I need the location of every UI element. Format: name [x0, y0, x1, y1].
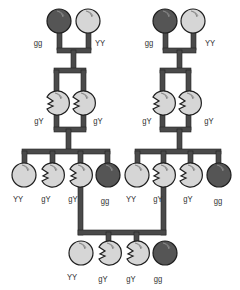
label-f2-left-1: YY: [13, 194, 23, 204]
pea-f1-right-2-icon: [179, 91, 201, 115]
pea-f1-right-1-icon: [153, 91, 175, 115]
pea-f3-4-icon: [153, 241, 177, 265]
label-f1-left-1: gY: [34, 116, 43, 126]
pea-f3-1-icon: [69, 241, 93, 265]
label-f2-left-2: gY: [41, 194, 50, 204]
pea-f3-2-icon: [99, 241, 121, 265]
pea-f2-right-3-icon: [180, 163, 202, 187]
pea-p-left-yy-icon: [76, 9, 100, 33]
label-f3-3: gY: [126, 274, 135, 284]
label-p-right-1: gg: [145, 38, 154, 48]
pea-f3-3-icon: [127, 241, 149, 265]
pedigree-diagram: gg YY gg YY gY gY gY gY YY gY gY gg YY g…: [0, 0, 240, 290]
pea-f2-right-4-icon: [207, 163, 231, 187]
label-f1-right-2: gY: [204, 116, 213, 126]
label-f1-right-1: gY: [142, 116, 151, 126]
pea-f2-left-2-icon: [42, 163, 64, 187]
label-p-left-2: YY: [95, 38, 105, 48]
pea-p-right-yy-icon: [181, 9, 205, 33]
pea-f2-right-2-icon: [153, 163, 175, 187]
pea-f2-left-3-icon: [70, 163, 92, 187]
pea-f2-left-4-icon: [96, 163, 120, 187]
pea-f1-left-2-icon: [73, 91, 95, 115]
label-f3-2: gY: [98, 274, 107, 284]
label-p-right-2: YY: [205, 38, 215, 48]
label-f3-4: gg: [154, 274, 163, 284]
pea-f2-left-1-icon: [12, 163, 36, 187]
label-f2-left-4: gg: [101, 196, 110, 206]
label-f2-right-2: gY: [153, 194, 162, 204]
label-p-left-1: gg: [34, 38, 43, 48]
label-f3-1: YY: [67, 272, 77, 282]
pea-f1-left-1-icon: [47, 91, 69, 115]
pea-p-right-gg-icon: [153, 9, 177, 33]
pea-f2-right-1-icon: [125, 163, 149, 187]
pea-p-left-gg-icon: [47, 9, 71, 33]
label-f2-right-3: gY: [183, 194, 192, 204]
label-f2-left-3: gY: [68, 194, 77, 204]
label-f2-right-1: YY: [126, 194, 136, 204]
label-f1-left-2: gY: [93, 116, 102, 126]
label-f2-right-4: gg: [214, 196, 223, 206]
